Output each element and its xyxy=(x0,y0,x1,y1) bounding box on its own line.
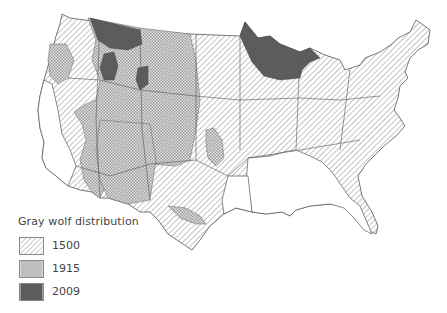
legend-item-2009: 2009 xyxy=(18,280,139,303)
legend-title: Gray wolf distribution xyxy=(18,215,139,228)
legend-item-1500: 1500 xyxy=(18,234,139,257)
legend-item-1915: 1915 xyxy=(18,257,139,280)
solid-swatch-icon xyxy=(19,283,44,301)
region-1915-southwest xyxy=(96,120,156,204)
legend-label: 1500 xyxy=(52,239,80,252)
map-legend: Gray wolf distribution 1500 1915 2009 xyxy=(18,215,139,303)
crosshatch-swatch-icon xyxy=(19,260,44,278)
legend-label: 2009 xyxy=(52,285,80,298)
region-east-texas-none xyxy=(222,176,252,214)
hatch-swatch-icon xyxy=(19,237,44,255)
legend-label: 1915 xyxy=(52,262,80,275)
